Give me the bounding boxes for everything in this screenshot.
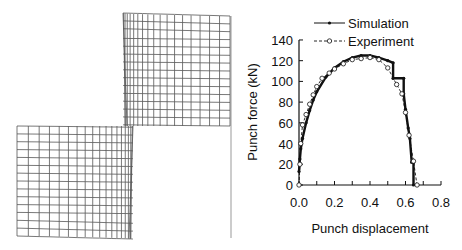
y-tick-label: 20: [279, 157, 293, 172]
lower-mesh-block: [17, 126, 133, 239]
legend-label: Experiment: [348, 34, 414, 49]
y-tick-label: 40: [279, 137, 293, 152]
legend-item-simulation: Simulation: [314, 16, 409, 31]
x-tick-label: 0.6: [396, 195, 414, 210]
legend-item-experiment: Experiment: [314, 34, 414, 49]
x-axis-label: Punch displacement: [311, 221, 428, 236]
fe-mesh-diagram: [0, 0, 240, 250]
force-displacement-chart: 0204060801001201400.00.20.40.60.8 Simula…: [240, 0, 462, 250]
y-tick-label: 60: [279, 116, 293, 131]
y-tick-label: 80: [279, 95, 293, 110]
x-tick-label: 0.2: [325, 195, 343, 210]
x-tick-label: 0.0: [290, 195, 308, 210]
series-experiment: [297, 55, 419, 187]
chart-legend: SimulationExperiment: [314, 16, 414, 49]
x-tick-label: 0.4: [361, 195, 379, 210]
y-tick-label: 0: [286, 178, 293, 193]
upper-mesh-block: [123, 13, 230, 126]
y-tick-label: 120: [271, 54, 293, 69]
mesh-panel: [0, 0, 240, 250]
chart-series: [297, 54, 419, 187]
legend-label: Simulation: [348, 16, 409, 31]
y-axis-label: Punch force (kN): [245, 63, 260, 161]
series-simulation: [297, 54, 415, 187]
chart-svg: 0204060801001201400.00.20.40.60.8 Simula…: [240, 0, 462, 250]
y-tick-label: 140: [271, 33, 293, 48]
x-tick-label: 0.8: [432, 195, 450, 210]
y-tick-label: 100: [271, 74, 293, 89]
